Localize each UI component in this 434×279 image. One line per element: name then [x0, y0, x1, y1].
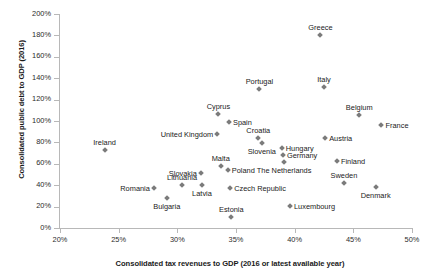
data-point-label: Slovenia	[248, 149, 276, 156]
y-axis-title: Consolidated public debt to GDP (2016)	[17, 5, 26, 215]
data-point[interactable]	[334, 158, 340, 164]
data-point-label: Belgium	[346, 103, 373, 110]
data-point[interactable]	[225, 167, 231, 173]
data-point-label: Czech Republic	[234, 185, 286, 192]
data-point[interactable]	[259, 141, 265, 147]
x-axis-title: Consolidated tax revenues to GDP (2016 o…	[46, 259, 414, 268]
data-point[interactable]	[102, 147, 108, 153]
data-point-label: Romania	[120, 185, 150, 192]
y-axis-tick: 60%	[54, 164, 60, 165]
data-point-label: Slovakia	[169, 170, 197, 177]
x-axis-tick-label: 45%	[346, 235, 361, 244]
data-point-label: Austria	[329, 135, 352, 142]
x-axis-tick	[295, 228, 296, 233]
data-point-label: United Kingdom	[161, 131, 214, 138]
x-axis-tick-label: 35%	[229, 235, 244, 244]
data-point-label: Estonia	[219, 206, 244, 213]
y-axis-tick-label: 40%	[36, 180, 51, 189]
y-axis-tick-label: 80%	[36, 137, 51, 146]
data-point[interactable]	[356, 112, 362, 118]
data-point[interactable]	[199, 182, 205, 188]
data-point-label: Denmark	[361, 193, 391, 200]
data-point[interactable]	[218, 163, 224, 169]
data-point-label: Greece	[308, 24, 332, 31]
data-point-label: Luxembourg	[294, 202, 335, 209]
data-point[interactable]	[227, 186, 233, 192]
y-axis-tick-label: 140%	[32, 73, 51, 82]
data-point-label: Germany	[287, 152, 317, 159]
y-axis-tick: 20%	[54, 207, 60, 208]
y-axis-tick-label: 20%	[36, 201, 51, 210]
data-point[interactable]	[228, 214, 234, 220]
x-axis-tick	[236, 228, 237, 233]
data-point-label: Croatia	[246, 127, 270, 134]
y-axis-tick: 80%	[54, 142, 60, 143]
y-axis-tick-label: 180%	[32, 30, 51, 39]
data-point[interactable]	[198, 171, 204, 177]
data-point[interactable]	[279, 145, 285, 151]
y-axis-tick: 140%	[54, 78, 60, 79]
y-axis-tick: 120%	[54, 100, 60, 101]
y-axis-tick: 100%	[54, 121, 60, 122]
data-point[interactable]	[341, 180, 347, 186]
data-point[interactable]	[151, 186, 157, 192]
data-point-label: France	[385, 122, 408, 129]
data-point[interactable]	[226, 119, 232, 125]
data-point-label: The Netherlands	[257, 167, 312, 174]
data-point[interactable]	[318, 33, 324, 39]
data-point[interactable]	[280, 152, 286, 158]
y-axis-tick-label: 0%	[40, 223, 51, 232]
data-point[interactable]	[321, 84, 327, 90]
data-point[interactable]	[216, 111, 222, 117]
data-point-label: Poland	[232, 167, 255, 174]
y-axis-tick-label: 60%	[36, 158, 51, 167]
data-point[interactable]	[214, 131, 220, 137]
x-axis-tick-label: 20%	[53, 235, 68, 244]
y-axis-tick: 200%	[54, 14, 60, 15]
data-point-label: Bulgaria	[153, 203, 180, 210]
data-point-label: Cyprus	[207, 102, 230, 109]
data-point-label: Finland	[341, 157, 365, 164]
y-axis-tick-label: 120%	[32, 94, 51, 103]
data-point[interactable]	[179, 182, 185, 188]
data-point[interactable]	[287, 203, 293, 209]
x-axis-tick	[177, 228, 178, 233]
x-axis-tick-label: 25%	[111, 235, 126, 244]
data-point-label: Italy	[317, 75, 331, 82]
y-axis-tick: 160%	[54, 57, 60, 58]
x-axis-tick	[412, 228, 413, 233]
x-axis-tick-label: 50%	[405, 235, 420, 244]
data-point[interactable]	[164, 195, 170, 201]
data-point[interactable]	[257, 86, 263, 92]
data-point-label: Malta	[212, 155, 230, 162]
y-axis-tick: 180%	[54, 35, 60, 36]
y-axis-tick-label: 200%	[32, 9, 51, 18]
x-axis-tick-label: 40%	[287, 235, 302, 244]
x-axis-tick	[119, 228, 120, 233]
x-axis-tick-label: 30%	[170, 235, 185, 244]
y-axis-tick: 40%	[54, 185, 60, 186]
data-point-label: Ireland	[93, 138, 116, 145]
data-point[interactable]	[322, 135, 328, 141]
y-axis-tick-label: 100%	[32, 116, 51, 125]
y-axis-tick-label: 160%	[32, 51, 51, 60]
scatter-chart: Consolidated public debt to GDP (2016) C…	[0, 0, 434, 279]
data-point-label: Portugal	[246, 77, 274, 84]
data-point-label: Latvia	[192, 191, 212, 198]
data-point[interactable]	[379, 122, 385, 128]
data-point-label: Sweden	[331, 172, 358, 179]
x-axis-tick	[60, 228, 61, 233]
x-axis-tick	[353, 228, 354, 233]
plot-area: 0%20%40%60%80%100%120%140%160%180%200%20…	[60, 14, 412, 228]
data-point[interactable]	[373, 184, 379, 190]
